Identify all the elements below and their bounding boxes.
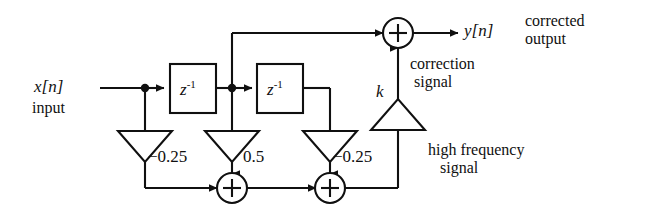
gain-c-value-label: −0.25 xyxy=(333,148,372,166)
correction-signal-line2: signal xyxy=(414,74,452,91)
junction-node-1 xyxy=(141,84,149,92)
input-signal-label: x[n] xyxy=(34,78,63,96)
correction-signal-line1: correction xyxy=(410,56,475,73)
input-caption: input xyxy=(32,100,65,117)
output-caption-line1: corrected xyxy=(525,13,585,30)
gain-b-value-label: 0.5 xyxy=(243,148,264,166)
high-frequency-signal-line1: high frequency xyxy=(428,142,524,159)
junction-node-2 xyxy=(228,84,236,92)
gain-k-value-label: k xyxy=(376,83,384,101)
delay-block-2-label: z-1 xyxy=(267,78,283,100)
gain-triangle-k xyxy=(371,99,425,130)
delay-1-exponent: -1 xyxy=(187,78,196,90)
delay-2-exponent: -1 xyxy=(274,78,283,90)
output-signal-label: y[n] xyxy=(464,22,493,40)
delay-1-base: z xyxy=(180,80,187,99)
output-caption-line2: output xyxy=(525,31,566,48)
gain-a-value-label: −0.25 xyxy=(148,148,187,166)
delay-block-1-label: z-1 xyxy=(180,78,196,100)
delay-2-base: z xyxy=(267,80,274,99)
high-frequency-signal-line2: signal xyxy=(440,160,478,177)
block-diagram-canvas: x[n] input y[n] corrected output correct… xyxy=(0,0,648,218)
